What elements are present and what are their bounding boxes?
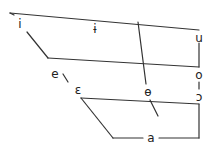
chart-line bbox=[10, 13, 199, 30]
vowel-chart: i ɨ u e o ɛ ɵ ɔ a bbox=[0, 0, 212, 153]
vowel-open-e: ɛ bbox=[75, 83, 82, 97]
chart-line bbox=[138, 22, 146, 84]
chart-line bbox=[63, 74, 68, 82]
vowel-barred-o: ɵ bbox=[144, 85, 151, 99]
vowel-barred-i: ɨ bbox=[93, 22, 97, 36]
vowel-e: e bbox=[51, 67, 58, 81]
vowel-o: o bbox=[195, 68, 202, 82]
vowel-labels: i ɨ u e o ɛ ɵ ɔ a bbox=[18, 17, 202, 145]
vowel-i: i bbox=[18, 17, 21, 31]
vowel-u: u bbox=[195, 31, 203, 45]
vowel-open-o: ɔ bbox=[196, 90, 203, 104]
chart-line bbox=[48, 58, 199, 67]
chart-line bbox=[27, 32, 48, 58]
chart-line bbox=[81, 98, 113, 138]
chart-line bbox=[81, 98, 199, 104]
vowel-a: a bbox=[147, 131, 154, 145]
chart-lines bbox=[10, 13, 199, 138]
